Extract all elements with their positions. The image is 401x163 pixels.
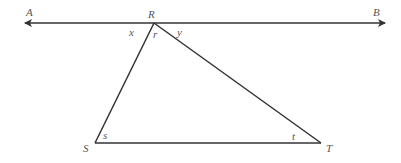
side-RS — [95, 23, 154, 143]
angle-t: t — [292, 130, 296, 142]
label-T: T — [326, 142, 333, 154]
angle-y: y — [176, 26, 182, 38]
label-S: S — [83, 142, 89, 154]
side-RT — [154, 23, 321, 143]
angle-r: r — [153, 28, 158, 40]
geometry-diagram: A B R S T x r y s t — [0, 0, 401, 163]
angle-x: x — [128, 26, 134, 38]
angle-s: s — [103, 129, 107, 141]
label-A: A — [25, 6, 33, 18]
label-B: B — [373, 6, 380, 18]
label-R: R — [147, 8, 155, 20]
